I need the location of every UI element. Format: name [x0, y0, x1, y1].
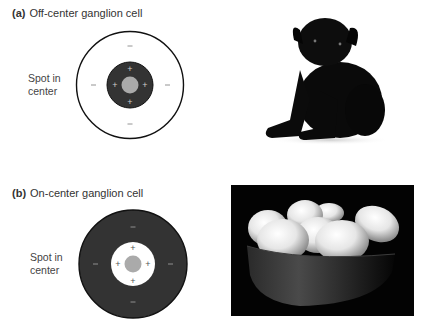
svg-text:+: + [127, 97, 132, 107]
receptive-field-off-center: + + + + [77, 32, 184, 139]
svg-text:+: + [115, 259, 120, 269]
svg-text:+: + [130, 276, 135, 286]
svg-text:+: + [130, 243, 135, 253]
light-spot [125, 256, 142, 273]
pug-photo [266, 18, 390, 145]
receptive-field-on-center: + + + + [79, 210, 187, 318]
light-spot [122, 77, 139, 94]
svg-text:+: + [142, 80, 147, 90]
svg-text:+: + [112, 80, 117, 90]
svg-text:+: + [127, 64, 132, 74]
svg-text:+: + [145, 259, 150, 269]
eggs-in-bowl-photo [231, 185, 414, 316]
